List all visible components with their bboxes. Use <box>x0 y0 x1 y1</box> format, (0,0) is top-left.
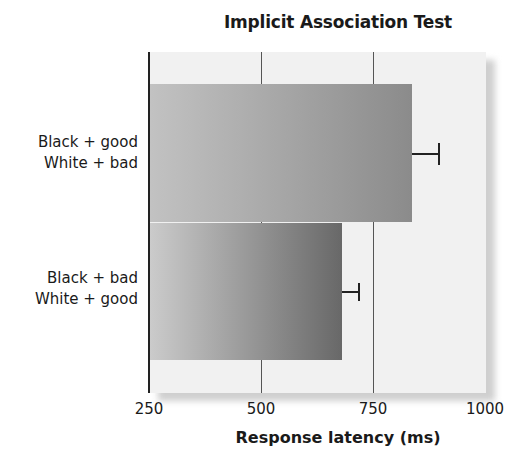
category-label-2-line2: White + good <box>35 289 138 310</box>
category-label-2: Black + bad White + good <box>35 268 138 310</box>
category-label-2-line1: Black + bad <box>35 268 138 289</box>
error-bar-1-cap <box>438 143 440 165</box>
x-axis-title: Response latency (ms) <box>150 428 526 447</box>
bar-black-good-white-bad <box>150 84 412 222</box>
category-label-1-line1: Black + good <box>38 132 138 153</box>
chart-title: Implicit Association Test <box>150 12 526 32</box>
category-label-1-line2: White + bad <box>38 153 138 174</box>
x-tick-750: 750 <box>359 400 388 418</box>
error-bar-2-cap <box>358 283 360 301</box>
x-tick-500: 500 <box>247 400 276 418</box>
error-bar-2 <box>342 291 359 293</box>
category-label-1: Black + good White + bad <box>38 132 138 174</box>
x-tick-1000: 1000 <box>466 400 504 418</box>
bar-black-bad-white-good <box>150 223 342 360</box>
y-axis-line <box>148 52 150 393</box>
x-tick-250: 250 <box>135 400 164 418</box>
error-bar-1 <box>412 153 439 155</box>
